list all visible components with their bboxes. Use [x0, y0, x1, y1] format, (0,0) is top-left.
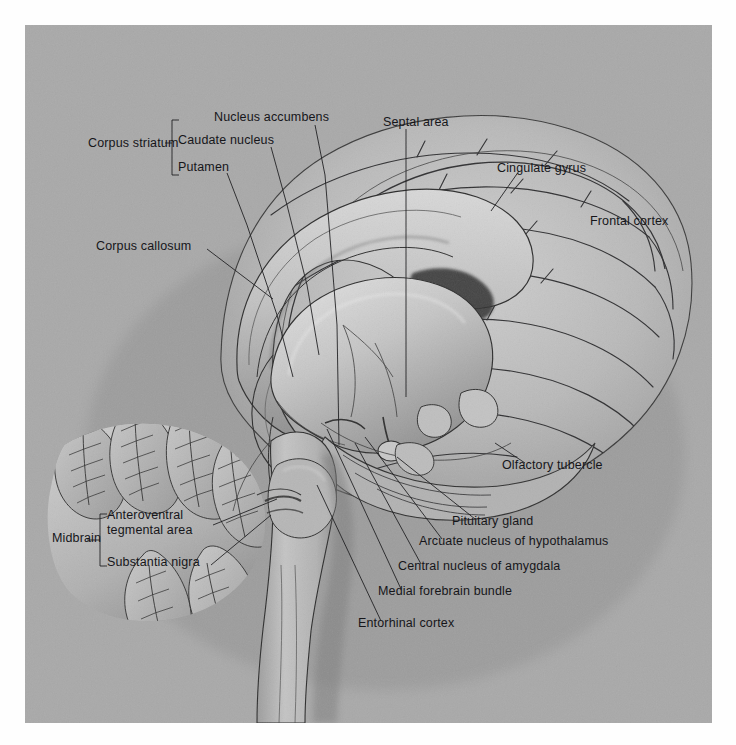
- label-olfactory-tubercle: Olfactory tubercle: [502, 458, 603, 472]
- anatomical-plate: Corpus striatum Nucleus accumbens Caudat…: [25, 25, 712, 723]
- label-substantia-nigra: Substantia nigra: [107, 555, 200, 569]
- label-corpus-callosum: Corpus callosum: [96, 239, 191, 253]
- label-line-2: tegmental area: [107, 523, 193, 538]
- label-frontal-cortex: Frontal cortex: [590, 214, 669, 228]
- label-putamen: Putamen: [178, 160, 229, 174]
- label-corpus-striatum: Corpus striatum: [88, 136, 178, 150]
- label-arcuate-nucleus: Arcuate nucleus of hypothalamus: [419, 534, 608, 548]
- label-central-nucleus-amygdala: Central nucleus of amygdala: [398, 559, 560, 573]
- label-caudate-nucleus: Caudate nucleus: [178, 133, 274, 147]
- label-midbrain: Midbrain: [52, 531, 101, 545]
- label-cingulate-gyrus: Cingulate gyrus: [497, 161, 586, 175]
- label-anteroventral-tegmental-area: Anteroventral tegmental area: [107, 508, 193, 537]
- label-nucleus-accumbens: Nucleus accumbens: [214, 110, 329, 124]
- label-septal-area: Septal area: [383, 115, 449, 129]
- label-entorhinal-cortex: Entorhinal cortex: [358, 616, 454, 630]
- label-line-1: Anteroventral: [107, 508, 193, 523]
- label-pituitary-gland: Pituitary gland: [452, 514, 533, 528]
- label-medial-forebrain-bundle: Medial forebrain bundle: [378, 584, 512, 598]
- figure-page: Corpus striatum Nucleus accumbens Caudat…: [0, 0, 736, 745]
